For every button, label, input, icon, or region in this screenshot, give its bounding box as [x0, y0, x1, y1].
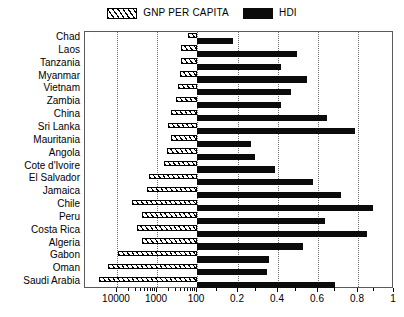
- solid-swatch-icon: [243, 8, 273, 19]
- hdi-bar: [197, 269, 267, 275]
- bar-row: [85, 96, 392, 109]
- hdi-bar: [197, 166, 275, 172]
- gnp-bar: [137, 225, 197, 230]
- x-axis-tick-label: 10000: [102, 293, 130, 304]
- hdi-bar: [197, 51, 297, 57]
- hdi-bar: [197, 243, 303, 249]
- gnp-bar: [180, 71, 197, 76]
- bar-rows: [85, 32, 392, 287]
- x-axis-tick-label: 0.4: [270, 293, 284, 304]
- category-label: Chad: [56, 31, 80, 44]
- bar-row: [85, 212, 392, 225]
- gnp-bar: [167, 148, 197, 153]
- category-axis-labels: ChadLaosTanzaniaMyanmarVietnamZambiaChin…: [0, 31, 80, 288]
- gnp-bar: [164, 161, 197, 166]
- bar-row: [85, 135, 392, 148]
- hdi-bar: [197, 38, 233, 44]
- gnp-hdi-bar-chart: GNP PER CAPITA HDI ChadLaosTanzaniaMyanm…: [0, 0, 404, 317]
- bar-row: [85, 250, 392, 263]
- minor-tick: [144, 288, 145, 291]
- legend-label-gnp: GNP PER CAPITA: [143, 8, 229, 18]
- minor-tick: [152, 288, 153, 291]
- hdi-bar: [197, 218, 325, 224]
- bar-row: [85, 58, 392, 71]
- x-axis-tick-label: 0.6: [310, 293, 324, 304]
- hdi-bar: [197, 179, 313, 185]
- chart-legend: GNP PER CAPITA HDI: [0, 4, 404, 22]
- hdi-bar: [197, 256, 269, 262]
- major-tick: [393, 288, 394, 292]
- gnp-bar: [181, 58, 197, 63]
- hdi-bar: [197, 115, 327, 121]
- gnp-bar: [142, 212, 197, 217]
- category-label: Tanzania: [40, 57, 80, 70]
- minor-tick: [255, 288, 256, 291]
- bar-row: [85, 263, 392, 276]
- category-label: Vietnam: [43, 82, 80, 95]
- minor-tick: [135, 288, 136, 291]
- hdi-bar: [197, 141, 251, 147]
- category-label: Saudi Arabia: [23, 275, 80, 288]
- minor-tick: [192, 288, 193, 291]
- major-tick: [156, 288, 157, 292]
- gnp-bar: [171, 110, 197, 115]
- bar-row: [85, 238, 392, 251]
- gnp-bar: [168, 123, 197, 128]
- gnp-bar: [178, 84, 197, 89]
- plot-area: [84, 31, 393, 288]
- x-axis-tick-label: 0.2: [230, 293, 244, 304]
- minor-tick: [187, 288, 188, 291]
- category-label: Cote d'Ivoire: [24, 160, 80, 173]
- category-label: Peru: [59, 211, 80, 224]
- category-label: Myanmar: [38, 70, 80, 83]
- major-tick: [116, 288, 117, 292]
- bar-row: [85, 225, 392, 238]
- minor-tick: [147, 288, 148, 291]
- gnp-bar: [181, 45, 197, 50]
- hdi-bar: [197, 192, 341, 198]
- hatched-swatch-icon: [107, 8, 137, 19]
- bar-row: [85, 83, 392, 96]
- x-axis-labels: 1000010001000.20.40.60.81: [0, 293, 404, 313]
- gnp-bar: [118, 251, 197, 256]
- hdi-bar: [197, 231, 367, 237]
- gnp-bar: [176, 97, 197, 102]
- category-label: Sri Lanka: [38, 121, 80, 134]
- bar-row: [85, 186, 392, 199]
- minor-tick: [190, 288, 191, 291]
- bar-row: [85, 71, 392, 84]
- minor-tick: [334, 288, 335, 291]
- minor-tick: [154, 288, 155, 291]
- bar-row: [85, 161, 392, 174]
- x-axis-tick-label: 0.8: [350, 293, 364, 304]
- minor-tick: [216, 288, 217, 291]
- hdi-bar: [197, 102, 281, 108]
- major-tick: [237, 288, 238, 292]
- bar-row: [85, 199, 392, 212]
- gnp-bar: [188, 33, 197, 38]
- category-label: Laos: [58, 44, 80, 57]
- gnp-bar: [149, 174, 197, 179]
- category-label: Gabon: [50, 249, 80, 262]
- gnp-bar: [171, 135, 197, 140]
- major-tick: [196, 288, 197, 292]
- gnp-bar: [142, 238, 197, 243]
- minor-tick: [184, 288, 185, 291]
- category-label: China: [54, 108, 80, 121]
- x-axis-tick-label: 1000: [145, 293, 167, 304]
- gnp-bar: [108, 264, 197, 269]
- minor-tick: [194, 288, 195, 291]
- category-label: Oman: [53, 262, 80, 275]
- category-label: Angola: [49, 147, 80, 160]
- hdi-bar: [197, 154, 255, 160]
- legend-label-hdi: HDI: [279, 8, 297, 18]
- x-axis-tick-label: 100: [188, 293, 205, 304]
- gnp-bar: [147, 187, 197, 192]
- minor-tick: [295, 288, 296, 291]
- minor-tick: [175, 288, 176, 291]
- major-tick: [357, 288, 358, 292]
- category-label: Chile: [57, 198, 80, 211]
- hdi-bar: [197, 76, 307, 82]
- category-label: El Salvador: [29, 172, 80, 185]
- minor-tick: [150, 288, 151, 291]
